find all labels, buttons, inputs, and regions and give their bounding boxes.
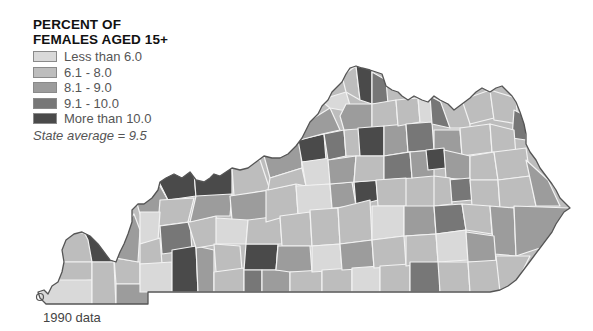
- data-year-note: 1990 data: [43, 310, 101, 325]
- kentucky-county-map: [0, 0, 593, 331]
